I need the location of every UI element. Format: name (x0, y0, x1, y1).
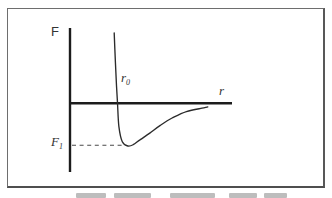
figure-page: F r0 r F1 (0, 0, 332, 198)
caption-fragment (76, 193, 106, 198)
x-axis-label: r (219, 84, 224, 97)
cropped-caption (0, 193, 332, 198)
caption-fragment (114, 193, 151, 198)
min-force-label-base: F (51, 134, 59, 149)
y-axis-label: F (51, 25, 59, 38)
caption-fragment (229, 193, 257, 198)
equilibrium-distance-label: r0 (121, 71, 130, 87)
min-force-label-sub: 1 (59, 142, 63, 151)
equilibrium-distance-label-sub: 0 (126, 78, 130, 87)
caption-fragment (264, 193, 287, 198)
force-curve (114, 33, 208, 146)
force-distance-plot (0, 0, 332, 198)
min-force-label: F1 (51, 135, 63, 151)
caption-fragment (170, 193, 215, 198)
